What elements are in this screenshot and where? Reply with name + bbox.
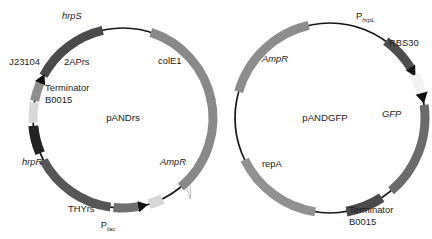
feature-arc xyxy=(33,126,40,153)
feature-label-repA: repA xyxy=(262,158,283,169)
feature-arc xyxy=(415,75,422,93)
feature-label-hrpS: hrpS xyxy=(62,10,83,21)
feature-label-subscript: hrpL xyxy=(362,15,375,22)
plasmid-pANDGFP: PhrpLRBS30GFPTerminatorB0015repAAmpRpAND… xyxy=(235,10,428,227)
feature-label-2APrs: 2APrs xyxy=(64,56,90,67)
feature-label-J23104: J23104 xyxy=(9,56,40,67)
plasmid-name-pANDrs: pANDrs xyxy=(106,112,140,123)
feature-arc xyxy=(149,199,162,204)
feature-TerminatorB0015_right[interactable]: TerminatorB0015 xyxy=(347,198,394,228)
feature-label-Ptac: Ptac xyxy=(101,219,116,231)
plasmid-name-pANDGFP: pANDGFP xyxy=(302,112,347,123)
feature-AmpR_right[interactable]: AmpR xyxy=(239,25,309,91)
feature-arc xyxy=(33,102,34,122)
feature-arc xyxy=(151,32,212,100)
feature-TerminatorB0015_left[interactable]: TerminatorB0015 xyxy=(33,82,89,153)
feature-colE1[interactable]: colE1 xyxy=(151,32,212,100)
feature-GFP[interactable]: GFP xyxy=(382,105,425,191)
feature-label2-TerminatorB0015_right: B0015 xyxy=(349,216,376,227)
feature-label-subscript: tac xyxy=(107,224,116,231)
feature-AmpR_left[interactable]: AmpR xyxy=(159,96,213,187)
feature-repA[interactable]: repA xyxy=(245,158,316,211)
feature-arc xyxy=(44,30,103,75)
feature-label-THYrs: THYrs xyxy=(68,203,95,214)
plasmid-map-figure: hrpS2APrsJ23104TerminatorB0015hrpRTHYrsP… xyxy=(0,0,432,239)
feature-hrpR[interactable]: hrpR xyxy=(22,156,110,207)
feature-arc xyxy=(181,96,213,187)
feature-arc xyxy=(35,83,40,101)
feature-label2-TerminatorB0015_left: B0015 xyxy=(45,94,72,105)
plasmid-render-root: hrpS2APrsJ23104TerminatorB0015hrpRTHYrsP… xyxy=(9,10,427,231)
feature-label-AmpR_right: AmpR xyxy=(261,53,288,64)
plasmid-pANDrs: hrpS2APrsJ23104TerminatorB0015hrpRTHYrsP… xyxy=(9,10,213,231)
feature-label-TerminatorB0015_right: Terminator xyxy=(349,204,393,215)
feature-label-RBS30: RBS30 xyxy=(389,37,419,48)
feature-arc xyxy=(114,207,139,208)
feature-label-PhrpL: PhrpL xyxy=(356,10,375,22)
feature-label-colE1: colE1 xyxy=(158,55,181,66)
feature-label-TerminatorB0015_left: Terminator xyxy=(45,82,89,93)
feature-label-GFP: GFP xyxy=(382,108,402,119)
feature-label-hrpR: hrpR xyxy=(22,156,43,167)
feature-label-AmpR_left: AmpR xyxy=(159,156,186,167)
feature-arc xyxy=(44,160,111,207)
figure-canvas: hrpS2APrsJ23104TerminatorB0015hrpRTHYrsP… xyxy=(0,0,432,239)
